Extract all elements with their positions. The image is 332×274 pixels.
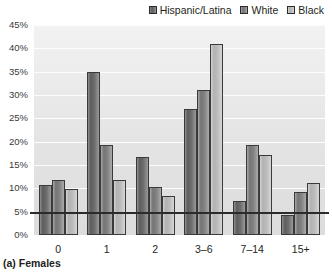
bar[interactable] [87, 72, 100, 235]
bar-group [131, 25, 180, 235]
legend-label: White [251, 5, 278, 16]
y-axis-tick-label: 30% [9, 90, 28, 100]
x-axis-tick-label: 0 [34, 242, 83, 258]
bar[interactable] [52, 180, 65, 235]
legend-label: Hispanic/Latina [160, 5, 232, 16]
bar-group [277, 25, 326, 235]
x-axis-tick-label: 3–6 [180, 242, 229, 258]
x-axis-tick-label: 1 [83, 242, 132, 258]
x-axis-line [30, 212, 329, 214]
bar-group [34, 25, 83, 235]
x-axis: 0123–67–1415+ [34, 242, 325, 258]
bar-groups [34, 25, 325, 235]
square-swatch-icon [287, 6, 295, 14]
legend-entry-black: Black [287, 5, 324, 16]
y-axis-tick-label: 40% [9, 43, 28, 53]
y-axis-tick-label: 35% [9, 67, 28, 77]
bar[interactable] [246, 145, 259, 235]
bar-chart: 0%5%10%15%20%25%30%35%40%45% [0, 22, 332, 240]
y-axis-tick-label: 10% [9, 183, 28, 193]
y-axis-tick-label: 20% [9, 137, 28, 147]
y-axis: 0%5%10%15%20%25%30%35%40%45% [0, 25, 32, 235]
bar[interactable] [307, 183, 320, 235]
bar[interactable] [100, 145, 113, 235]
square-swatch-icon [240, 6, 248, 14]
bar[interactable] [281, 215, 294, 235]
bar[interactable] [259, 155, 272, 235]
bar[interactable] [113, 180, 126, 235]
bar-group [180, 25, 229, 235]
y-axis-tick-label: 0% [14, 230, 28, 240]
figure-caption: (a) Females [3, 257, 61, 270]
legend-entry-white: White [240, 5, 278, 16]
y-axis-tick-label: 5% [14, 207, 28, 217]
legend-label: Black [298, 5, 324, 16]
bar-group [83, 25, 132, 235]
legend-entry-hispanic-latina: Hispanic/Latina [149, 5, 232, 16]
chart-legend: Hispanic/Latina White Black [0, 3, 328, 17]
bar[interactable] [210, 44, 223, 235]
bar[interactable] [162, 196, 175, 235]
y-axis-tick-label: 45% [9, 20, 28, 30]
x-axis-tick-label: 15+ [277, 242, 326, 258]
x-axis-tick-label: 7–14 [228, 242, 277, 258]
bar[interactable] [136, 157, 149, 235]
bar[interactable] [233, 201, 246, 235]
bar-group [228, 25, 277, 235]
square-swatch-icon [149, 6, 157, 14]
y-axis-tick-label: 15% [9, 160, 28, 170]
y-axis-tick-label: 25% [9, 113, 28, 123]
x-axis-tick-label: 2 [131, 242, 180, 258]
bar[interactable] [39, 185, 52, 235]
bar[interactable] [184, 109, 197, 235]
